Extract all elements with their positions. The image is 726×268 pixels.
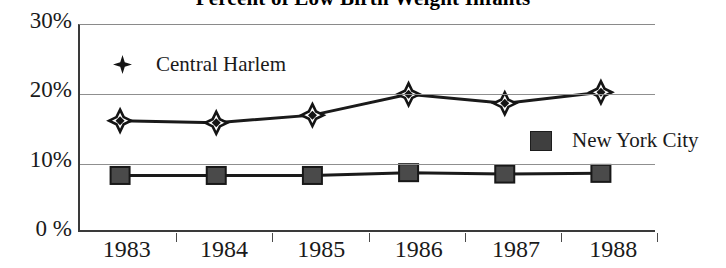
y-axis-label-20: 20% (0, 78, 72, 101)
data-point-square (495, 166, 514, 183)
series-line-new-york-city (120, 173, 601, 176)
series-line-central-harlem (120, 92, 601, 123)
x-axis-label-1984: 1984 (175, 236, 272, 268)
y-axis-label-10: 10% (0, 148, 72, 171)
legend-label-central-harlem: Central Harlem (156, 52, 286, 77)
legend-label-new-york-city: New York City (572, 128, 699, 153)
y-axis-label-30: 30% (0, 9, 72, 32)
x-axis-label-1986: 1986 (370, 236, 467, 268)
legend-item-central-harlem: Central Harlem (113, 52, 286, 77)
y-axis-labels: 30% 20% 10% 0 % (0, 0, 72, 268)
x-axis-label-1988: 1988 (565, 236, 662, 268)
legend-item-new-york-city: New York City (530, 128, 699, 153)
chart-title: Percent of Low Birth Weight Infants (0, 0, 726, 11)
square-marker-icon (530, 131, 552, 151)
chart-container: Percent of Low Birth Weight Infants 30% … (0, 0, 726, 268)
data-point-square (207, 167, 226, 184)
y-axis-label-0: 0 % (0, 217, 72, 240)
gridline-10 (80, 164, 655, 165)
data-point-square (111, 167, 130, 184)
x-axis-label-1983: 1983 (78, 236, 175, 268)
data-point-square (591, 165, 610, 182)
x-axis-label-1985: 1985 (273, 236, 370, 268)
x-axis-labels: 1983 1984 1985 1986 1987 1988 (78, 236, 662, 268)
data-point-square (303, 167, 322, 184)
diamond-marker-icon (113, 55, 132, 74)
data-point-square (399, 164, 418, 181)
x-axis-label-1987: 1987 (467, 236, 564, 268)
gridline-20 (80, 94, 655, 95)
